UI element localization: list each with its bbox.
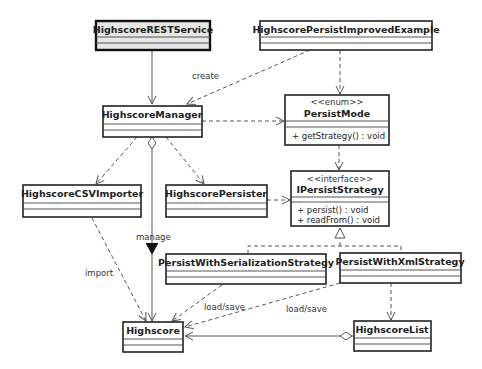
class-highscore-persist-improved-example[interactable]: HighscorePersistImprovedExample [252,21,439,50]
class-highscore-rest-service[interactable]: HighscoreRESTService [93,21,213,50]
class-highscore-persister[interactable]: HighscorePersister [165,185,267,217]
aggr-diamond-list [340,332,352,340]
dep-manager-csv [96,137,137,184]
class-ipersist-strategy[interactable]: <<interface>> IPersistStrategy + persist… [291,171,389,226]
dep-manager-persister [166,137,204,184]
method: + getStrategy() : void [292,131,385,141]
class-name: HighscorePersistImprovedExample [252,24,439,35]
class-highscore-csv-importer[interactable]: HighscoreCSVImporter [21,185,143,217]
class-name: HighscoreList [355,324,429,335]
stereotype: <<interface>> [307,174,373,184]
class-highscore[interactable]: Highscore [123,322,183,352]
label-load-save-serial: load/save [204,302,245,312]
uml-class-diagram: create manage import load/save load/save… [0,0,482,369]
class-name: HighscoreRESTService [93,24,213,35]
class-name: Highscore [126,325,180,336]
method: + persist() : void [297,205,368,215]
stereotype: <<enum>> [311,97,364,107]
aggr-diamond-manager [148,137,156,149]
method: + readFrom() : void [297,215,380,225]
class-highscore-manager[interactable]: HighscoreManager [102,106,203,137]
class-highscore-list[interactable]: HighscoreList [354,321,431,351]
class-name: HighscorePersister [165,188,267,199]
class-name: PersistWithXmlStrategy [335,256,465,267]
label-manage: manage [136,232,171,242]
label-create: create [192,71,219,81]
class-name: PersistWithSerializationStrategy [158,257,335,268]
class-name: PersistMode [304,108,370,119]
label-load-save-xml: load/save [286,304,327,314]
label-import: import [85,268,114,278]
class-persist-with-xml-strategy[interactable]: PersistWithXmlStrategy [335,253,465,283]
class-name: IPersistStrategy [296,184,384,195]
class-name: HighscoreCSVImporter [21,188,143,199]
class-persist-with-serialization-strategy[interactable]: PersistWithSerializationStrategy [158,254,335,284]
class-persist-mode[interactable]: <<enum>> PersistMode + getStrategy() : v… [285,95,389,145]
class-name: HighscoreManager [102,109,203,120]
